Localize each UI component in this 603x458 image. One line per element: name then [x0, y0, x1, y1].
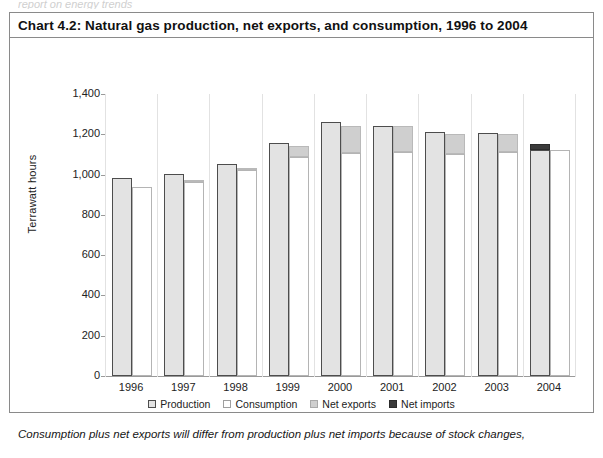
chart-footnote: Consumption plus net exports will differ…	[18, 428, 588, 440]
legend-label: Consumption	[235, 398, 297, 410]
legend-swatch-icon	[310, 400, 318, 408]
legend-label: Net imports	[401, 398, 455, 410]
x-tick-label: 2004	[523, 381, 575, 393]
bar-production[interactable]	[269, 143, 289, 376]
y-tick-label: 0	[54, 369, 100, 381]
bar-net-exports[interactable]	[289, 146, 309, 157]
legend-label: Net exports	[322, 398, 376, 410]
chart-legend: ProductionConsumptionNet exportsNet impo…	[10, 398, 593, 410]
y-axis-title: Terrawatt hours	[26, 84, 38, 304]
bar-net-exports[interactable]	[184, 180, 204, 182]
bar-group[interactable]: 2000	[314, 38, 366, 376]
x-tick-label: 2002	[418, 381, 470, 393]
bar-net-exports[interactable]	[341, 126, 361, 153]
chart-title: Chart 4.2: Natural gas production, net e…	[10, 13, 593, 38]
bar-group[interactable]: 2004	[523, 38, 575, 376]
y-tick-label: 1,000	[54, 168, 100, 180]
bar-group[interactable]: 1999	[262, 38, 314, 376]
bar-consumption[interactable]	[289, 157, 309, 376]
bar-consumption[interactable]	[341, 153, 361, 376]
y-tick-label: 1,400	[54, 87, 100, 99]
chart-panel: Chart 4.2: Natural gas production, net e…	[9, 12, 594, 413]
legend-item-consumption[interactable]: Consumption	[223, 398, 297, 410]
x-tick-label: 2001	[366, 381, 418, 393]
plot-area: Terrawatt hours 02004006008001,0001,2001…	[10, 38, 593, 412]
category-separator	[575, 94, 576, 377]
bar-production[interactable]	[373, 126, 393, 376]
bar-net-exports[interactable]	[237, 168, 257, 170]
x-tick-label: 2003	[471, 381, 523, 393]
bar-group[interactable]: 2003	[471, 38, 523, 376]
legend-item-production[interactable]: Production	[148, 398, 210, 410]
x-tick-label: 1997	[157, 381, 209, 393]
legend-swatch-icon	[148, 400, 156, 408]
bar-net-exports[interactable]	[498, 134, 518, 152]
bar-production[interactable]	[478, 133, 498, 376]
legend-swatch-icon	[389, 400, 397, 408]
bar-net-imports[interactable]	[530, 144, 550, 150]
bar-group[interactable]: 1998	[209, 38, 261, 376]
y-tick-label: 200	[54, 329, 100, 341]
bar-net-exports[interactable]	[445, 134, 465, 154]
x-tick-label: 1999	[262, 381, 314, 393]
clipped-header-text: report on energy trends	[18, 0, 578, 9]
y-tick-label: 400	[54, 288, 100, 300]
legend-item-net-imports[interactable]: Net imports	[389, 398, 455, 410]
bar-production[interactable]	[530, 150, 550, 376]
bar-group[interactable]: 1997	[157, 38, 209, 376]
bar-consumption[interactable]	[132, 187, 152, 376]
bar-consumption[interactable]	[445, 154, 465, 376]
bar-consumption[interactable]	[184, 182, 204, 376]
bar-group[interactable]: 1996	[105, 38, 157, 376]
y-tick-label: 800	[54, 208, 100, 220]
bar-production[interactable]	[112, 178, 132, 376]
x-tick-label: 1998	[209, 381, 261, 393]
bar-group[interactable]: 2001	[366, 38, 418, 376]
bar-consumption[interactable]	[498, 152, 518, 376]
legend-swatch-icon	[223, 400, 231, 408]
bar-production[interactable]	[321, 122, 341, 376]
x-tick-label: 1996	[105, 381, 157, 393]
x-tick-label: 2000	[314, 381, 366, 393]
bar-consumption[interactable]	[393, 152, 413, 376]
y-tick-label: 600	[54, 248, 100, 260]
bar-production[interactable]	[164, 174, 184, 376]
bar-groups: 199619971998199920002001200220032004	[105, 38, 575, 412]
bar-production[interactable]	[425, 132, 445, 376]
legend-label: Production	[160, 398, 210, 410]
bar-net-exports[interactable]	[393, 126, 413, 153]
bar-production[interactable]	[217, 164, 237, 376]
bar-consumption[interactable]	[550, 150, 570, 376]
bar-group[interactable]: 2002	[418, 38, 470, 376]
y-tick-label: 1,200	[54, 127, 100, 139]
bar-consumption[interactable]	[237, 170, 257, 376]
legend-item-net-exports[interactable]: Net exports	[310, 398, 376, 410]
